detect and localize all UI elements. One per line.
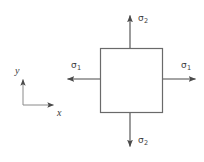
sigma2-top-label: σ2 [138, 14, 148, 24]
sigma2-top-subscript: 2 [144, 17, 148, 25]
axis-x-label: x [57, 108, 61, 118]
sigma1-right-symbol: σ [181, 60, 187, 70]
stress-element-diagram: σ2 σ2 σ1 σ1 y x [0, 0, 204, 162]
sigma1-left-subscript: 1 [77, 64, 81, 72]
sigma2-bottom-label: σ2 [138, 136, 148, 146]
sigma2-top-symbol: σ [138, 13, 144, 23]
diagram-canvas [0, 0, 204, 162]
sigma1-right-label: σ1 [181, 61, 191, 71]
sigma1-left-symbol: σ [71, 60, 77, 70]
sigma2-bottom-subscript: 2 [144, 139, 148, 147]
stress-element-square [101, 49, 163, 113]
sigma1-left-label: σ1 [71, 61, 81, 71]
axis-y-label: y [15, 66, 19, 76]
sigma1-right-subscript: 1 [187, 64, 191, 72]
sigma2-bottom-symbol: σ [138, 135, 144, 145]
